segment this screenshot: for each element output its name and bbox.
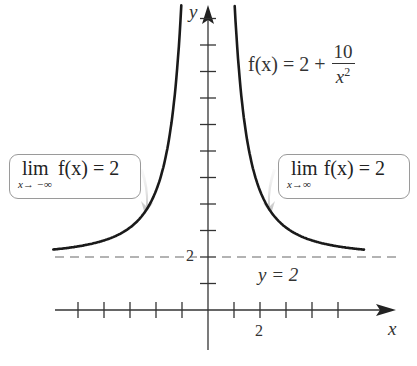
formula-denominator: x2 [336, 64, 350, 86]
formula-denominator-exp: 2 [344, 65, 350, 79]
right-lim-expression: f(x) = 2 [324, 158, 385, 178]
right-lim-word: lim [287, 158, 318, 178]
left-limit-callout: lim x→ −∞ f(x) = 2 [9, 154, 141, 199]
left-callout-arrow-icon [140, 169, 153, 214]
x-axis [55, 302, 396, 318]
x-tick-label-2: 2 [255, 322, 263, 340]
left-limit-operator: lim x→ −∞ [18, 158, 52, 190]
right-limit-callout: lim x→∞ f(x) = 2 [278, 154, 410, 199]
formula-numerator: 10 [332, 42, 355, 64]
right-limit-operator: lim x→∞ [287, 158, 318, 190]
asymptote-label-text: y = 2 [258, 264, 298, 285]
left-lim-expression: f(x) = 2 [58, 158, 119, 178]
left-lim-word: lim [18, 158, 49, 178]
y-tick-label-2: 2 [186, 247, 194, 265]
formula-denominator-base: x [336, 66, 344, 87]
right-lim-subscript: x→∞ [287, 179, 311, 190]
asymptote-label: y = 2 [258, 264, 298, 286]
y-axis [200, 5, 216, 350]
formula-fraction: 10 x2 [332, 42, 355, 86]
left-lim-subscript: x→ −∞ [18, 179, 52, 190]
function-formula: f(x) = 2 + 10 x2 [248, 42, 355, 86]
x-axis-label: x [388, 318, 396, 340]
curve-left-branch [53, 5, 181, 249]
formula-lhs: f(x) = 2 + [248, 53, 326, 76]
y-axis-label: y [189, 1, 197, 23]
